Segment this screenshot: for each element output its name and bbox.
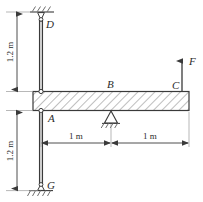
label-point-d: D [45,18,54,30]
dimension-right-span: 1 m [112,131,188,143]
label-point-g: G [47,179,55,191]
label-force-f: F [188,55,196,67]
horizontal-beam [33,92,189,111]
label-point-c: C [172,79,180,91]
dimension-label-lower: 1.2 m [5,141,15,162]
pin-circle-beam-bottom [39,108,43,112]
label-point-b: B [107,78,114,90]
dimension-label-upper: 1.2 m [5,42,15,63]
dimension-left-span: 1 m [42,131,110,143]
middle-pin-support [101,111,120,128]
pin-circle-g [39,183,43,187]
dimension-label-right-span: 1 m [143,131,157,141]
label-point-a: A [47,112,55,124]
dimension-upper-column: 1.2 m [5,14,17,90]
diagram-canvas: 1.2 m 1.2 m 1 m 1 m D A B C G F [0,0,203,202]
dimension-lower-column: 1.2 m [5,113,17,189]
statics-diagram: 1.2 m 1.2 m 1 m 1 m D A B C G F [0,0,203,202]
pin-circle-beam-top [39,89,43,93]
dimension-label-left-span: 1 m [69,131,83,141]
